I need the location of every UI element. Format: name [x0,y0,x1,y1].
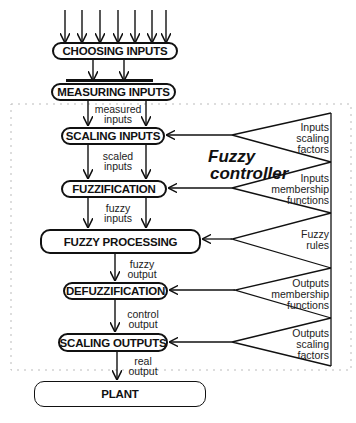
fuzzy-output-label: fuzzy output [122,259,162,279]
sensor-bar [66,79,153,82]
outputs-membership-functions-label: Outputs membership functions [271,278,329,311]
label-line: factors [296,144,329,155]
outputs-scaling-factors-label: Outputs scaling factors [292,328,329,361]
fuzzy-processing-block: FUZZY PROCESSING [40,229,201,254]
defuzzification-block: DEFUZZIFICATION [63,282,168,300]
control-output-label: control output [122,309,164,329]
input-arrows [65,10,166,42]
scaled-inputs-label: scaled inputs [92,151,144,171]
scaling-outputs-block: SCALING OUTPUTS [58,333,168,352]
label-line: output [123,366,163,376]
label-line: functions [271,195,329,206]
measuring-inputs-block: MEASURING INPUTS [51,83,176,101]
inputs-membership-functions-label: Inputs membership functions [271,173,329,206]
label-line: inputs [92,161,144,171]
label-line: functions [271,300,329,311]
choosing-to-measuring [93,60,124,80]
fuzzy-rules-label: Fuzzy rules [301,229,329,251]
label-line: inputs [92,114,144,124]
fuzzy-inputs-label: fuzzy inputs [92,203,144,223]
label-line: output [122,269,162,279]
fuzzification-block: FUZZIFICATION [61,180,167,198]
title-line: Fuzzy [208,148,288,165]
inputs-scaling-factors-label: Inputs scaling factors [296,122,329,155]
real-output-label: real output [123,356,163,376]
scaling-inputs-block: SCALING INPUTS [61,127,165,145]
label-line: output [122,319,164,329]
label-line: factors [292,350,329,361]
label-line: inputs [92,213,144,223]
label-line: rules [301,240,329,251]
plant-block: PLANT [34,381,206,407]
choosing-inputs-block: CHOOSING INPUTS [52,42,178,60]
measured-inputs-label: measured inputs [92,104,144,124]
